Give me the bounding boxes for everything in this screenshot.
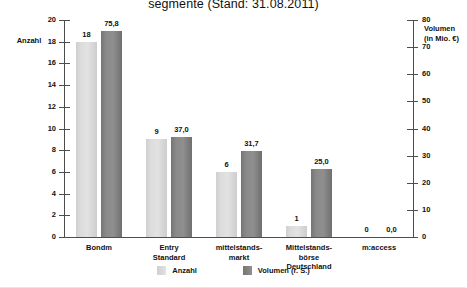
legend-label: Volumen (r. S.): [258, 266, 310, 275]
right-axis-tick-label: 20: [422, 179, 442, 187]
right-axis-tick-label: 70: [422, 43, 442, 51]
left-axis-tick-label: 20: [36, 16, 56, 24]
bar-label-volumen: 0,0: [381, 226, 402, 234]
left-axis-tick-label: 4: [36, 190, 56, 198]
right-axis-tick: [407, 237, 418, 238]
bar-label-anzahl: 0: [356, 226, 377, 234]
baseline-axis: [64, 237, 414, 238]
right-axis-tick-label: 80: [422, 16, 442, 24]
plot-area: 02468101214161820 01020304050607080 1875…: [64, 20, 414, 238]
chart-container: segmente (Stand: 31.08.2011) Anzahl Volu…: [0, 0, 467, 288]
legend-label: Anzahl: [172, 266, 197, 275]
legend-item[interactable]: Volumen (r. S.): [243, 266, 310, 275]
left-axis-tick-label: 10: [36, 125, 56, 133]
right-axis-tick-label: 60: [422, 70, 442, 78]
chart-title: segmente (Stand: 31.08.2011): [0, 0, 467, 11]
left-axis-tick: [59, 237, 70, 238]
legend-swatch-volumen: [243, 266, 252, 275]
right-axis-tick-label: 0: [422, 233, 442, 241]
left-axis-tick-label: 16: [36, 59, 56, 67]
left-axis-tick-label: 8: [36, 146, 56, 154]
left-axis-tick-label: 18: [36, 38, 56, 46]
right-axis-tick-label: 10: [422, 206, 442, 214]
category-label: m:access: [334, 243, 424, 253]
right-axis-tick-label: 50: [422, 97, 442, 105]
legend-item[interactable]: Anzahl: [157, 266, 197, 275]
left-axis-tick-label: 12: [36, 103, 56, 111]
legend-swatch-anzahl: [157, 266, 166, 275]
right-axis-title: Volumen (in Mio. €): [424, 24, 467, 44]
bar-group: 00,0: [64, 20, 414, 237]
right-axis-tick-label: 30: [422, 152, 442, 160]
left-axis-tick-label: 2: [36, 211, 56, 219]
left-axis-tick-label: 14: [36, 81, 56, 89]
left-axis-tick-label: 6: [36, 168, 56, 176]
chart-legend: AnzahlVolumen (r. S.): [0, 266, 467, 275]
right-axis-title-line1: Volumen: [424, 24, 455, 33]
left-axis-tick-label: 0: [36, 233, 56, 241]
right-axis-tick-label: 40: [422, 125, 442, 133]
